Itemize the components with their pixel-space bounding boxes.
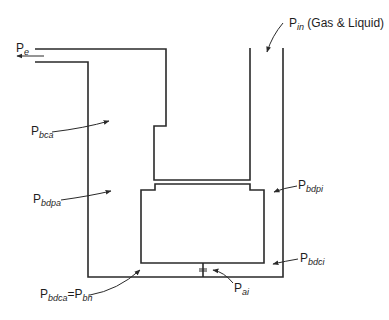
label-p-ai: Pai (234, 281, 250, 297)
inlet-arrow-icon (267, 23, 283, 52)
separator-diagram: Pe Pin (Gas & Liquid) Pbca Pbdpa Pbdpi P… (0, 0, 389, 320)
label-p-bdca-eq-p-bh: Pbdca=Pbh (40, 287, 93, 303)
label-p-bdpi: Pbdpi (298, 178, 324, 194)
orifice-icon (199, 263, 207, 277)
bdpa-arrow-icon (61, 191, 111, 200)
label-p-e: Pe (16, 41, 29, 57)
label-p-bdci: Pbdci (300, 251, 326, 267)
label-p-in: Pin (Gas & Liquid) (289, 16, 384, 32)
bca-arrow-icon (52, 121, 109, 132)
outlet-bottom-wall (35, 48, 283, 277)
bdci-arrow-icon (273, 259, 298, 264)
bdpi-arrow-icon (274, 186, 297, 192)
bdca-arrow-icon (90, 270, 140, 295)
label-p-bca: Pbca (31, 124, 54, 140)
label-p-bdpa: Pbdpa (33, 192, 61, 208)
outlet-top-wall (35, 48, 250, 180)
inner-chamber (141, 184, 264, 263)
